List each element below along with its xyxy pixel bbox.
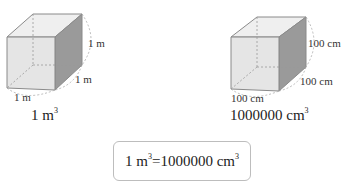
right-height-label: 100 cm <box>308 37 341 49</box>
left-depth-label: 1 m <box>75 73 92 85</box>
equation-text: 1 m3=1000000 cm3 <box>125 152 239 170</box>
right-width-label: 100 cm <box>231 92 264 104</box>
right-depth-label: 100 cm <box>300 75 333 87</box>
left-height-label: 1 m <box>88 37 105 49</box>
left-volume-caption: 1 m3 <box>31 106 58 124</box>
equation-box: 1 m3=1000000 cm3 <box>113 141 251 181</box>
right-volume-caption: 1000000 cm3 <box>230 106 309 124</box>
left-width-label: 1 m <box>14 91 31 103</box>
